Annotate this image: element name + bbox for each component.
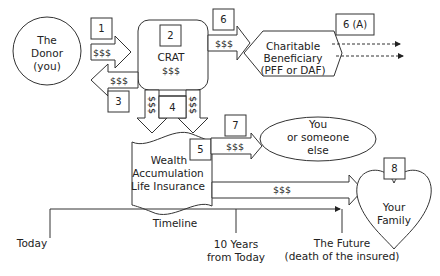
svg-text:Life Insurance: Life Insurance — [131, 180, 205, 192]
svg-text:$$$: $$$ — [110, 75, 128, 86]
svg-text:Donor: Donor — [31, 47, 64, 59]
svg-text:(death of the insured): (death of the insured) — [285, 250, 400, 262]
svg-text:$$$: $$$ — [93, 47, 111, 58]
svg-text:6: 6 — [220, 14, 226, 25]
your-family-node: 8 Your Family — [357, 158, 431, 249]
timeline-10years: 10 Years — [214, 238, 258, 250]
svg-text:8: 8 — [391, 163, 397, 174]
step-4-badge: 4 — [159, 96, 186, 118]
svg-text:Your: Your — [382, 201, 406, 213]
svg-text:Accumulation: Accumulation — [132, 167, 204, 179]
svg-text:3: 3 — [115, 96, 121, 107]
step-6a-badge: 6 (A) — [336, 14, 374, 35]
svg-text:The: The — [36, 34, 57, 46]
svg-text:CRAT: CRAT — [158, 51, 186, 63]
svg-text:6 (A): 6 (A) — [343, 19, 367, 30]
life-insurance-node: 5 Wealth Accumulation Life Insurance — [131, 132, 212, 214]
svg-text:4: 4 — [169, 102, 175, 113]
timeline-today: Today — [16, 237, 47, 249]
arrow-insurance-to-someone: $$$ — [211, 133, 262, 159]
svg-text:$$$: $$$ — [215, 38, 233, 49]
svg-text:5: 5 — [197, 144, 203, 155]
charitable-beneficiary-node: Charitable Beneficiary (PFF or DAF) — [244, 31, 342, 76]
timeline: Timeline Today 10 Years from Today The F… — [16, 209, 400, 263]
svg-text:$$$: $$$ — [226, 141, 244, 152]
timeline-future: The Future — [313, 237, 370, 249]
svg-text:(PFF or DAF): (PFF or DAF) — [260, 64, 325, 76]
svg-text:or someone: or someone — [287, 131, 349, 143]
arrow-donor-to-crat: $$$ — [91, 36, 131, 68]
svg-text:$$$: $$$ — [188, 96, 199, 114]
you-or-someone-node: You or someone else — [260, 117, 376, 161]
svg-text:else: else — [307, 144, 328, 156]
timeline-title: Timeline — [152, 217, 198, 229]
crat-diagram: The Donor (you) 1 $$$ 2 CRAT $$$ $$$ 3 $… — [0, 0, 440, 276]
svg-text:Charitable: Charitable — [266, 40, 320, 52]
svg-text:You: You — [308, 118, 327, 130]
arrow-crat-to-charity: $$$ — [208, 26, 250, 60]
step-6-badge: 6 — [213, 9, 234, 30]
svg-text:$$$: $$$ — [147, 96, 158, 114]
arrow-insurance-to-family: $$$ — [212, 175, 363, 205]
svg-text:2: 2 — [167, 30, 173, 41]
step-1-badge: 1 — [91, 18, 112, 39]
svg-text:Family: Family — [377, 214, 411, 226]
svg-text:$$$: $$$ — [273, 184, 291, 195]
donor-node: The Donor (you) — [13, 17, 81, 85]
step-3-badge: 3 — [108, 91, 129, 112]
svg-text:Beneficiary: Beneficiary — [263, 52, 322, 64]
svg-text:7: 7 — [232, 120, 238, 131]
step-7-badge: 7 — [225, 115, 246, 136]
crat-node: 2 CRAT $$$ — [138, 20, 208, 90]
svg-text:Wealth: Wealth — [151, 154, 187, 166]
svg-text:(you): (you) — [33, 60, 61, 72]
svg-text:1: 1 — [98, 23, 104, 34]
svg-text:from Today: from Today — [207, 251, 265, 263]
svg-text:$$$: $$$ — [162, 65, 180, 76]
